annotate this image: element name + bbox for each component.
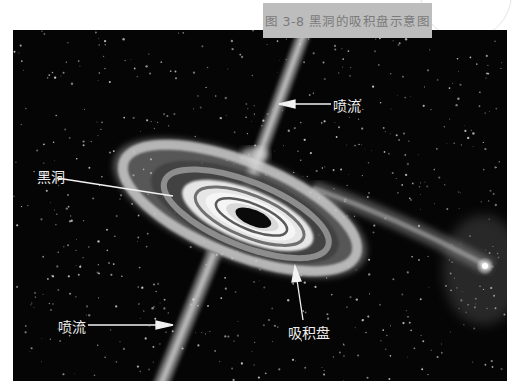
label-jet-bottom: 喷流: [58, 316, 86, 336]
arrow-jet-bottom: [156, 321, 173, 329]
black-hole-illustration: [13, 30, 507, 381]
label-jet-top: 喷流: [333, 95, 361, 115]
space-scene: [13, 30, 507, 381]
figure-caption: 图 3-8 黑洞的吸积盘示意图: [265, 11, 431, 30]
label-black-hole: 黑洞: [37, 166, 65, 186]
label-accretion-disk: 吸积盘: [288, 322, 330, 342]
figure-caption-box: 图 3-8 黑洞的吸积盘示意图: [263, 3, 432, 38]
